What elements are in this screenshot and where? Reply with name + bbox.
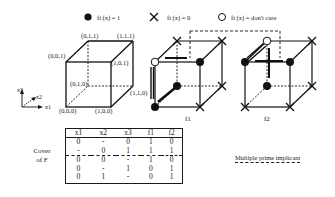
f1-vertex-001-dontcare xyxy=(151,58,159,66)
cube-f2 xyxy=(245,41,312,107)
reference-cube xyxy=(66,41,133,107)
table-row: 0 0 - 1 0 xyxy=(66,156,182,165)
cover-table: x1 x2 x3 f1 f2 0 - 0 1 0 - 0 1 1 1 xyxy=(65,128,183,184)
cover-label: Cover of F xyxy=(27,147,57,165)
cube-f1-label: f1 xyxy=(185,115,191,123)
cover-label-line2: of F xyxy=(27,156,57,165)
table-row: 0 1 - 0 1 xyxy=(66,173,182,182)
legend-on-label: fi (x) = 1 xyxy=(97,14,120,22)
f1-vertex-010-on xyxy=(173,82,181,90)
vertex-label-010: (0,1,0) xyxy=(70,80,87,88)
vertex-label-110: (1,1,0) xyxy=(130,89,147,97)
f2-vertex-011-dontcare xyxy=(263,37,271,45)
vertex-label-001: (0,0,1) xyxy=(48,52,65,60)
axis-x2-label: x2 xyxy=(36,94,42,100)
vertex-label-000: (0,0,0) xyxy=(59,107,76,115)
legend: fi (x) = 1 fi (x) = 0 fi (x) = don't car… xyxy=(84,13,276,22)
cube-f1 xyxy=(151,41,222,107)
legend-off-label: fi (x) = 0 xyxy=(167,14,190,22)
cube-f2-label: f2 xyxy=(264,115,270,123)
vertex-label-100: (1,0,0) xyxy=(95,107,112,115)
table-row-multiple-prime-implicant: - 0 1 1 1 xyxy=(66,147,182,156)
vertex-label-111: (1,1,1) xyxy=(117,32,134,40)
axis-x3-label: x3 xyxy=(17,87,23,93)
table-row: 0 - 0 1 0 xyxy=(66,138,182,147)
hollow-circle-icon xyxy=(219,14,226,21)
cell: 1 xyxy=(161,173,182,182)
legend-dc-label: fi (x) = don't care xyxy=(231,14,276,22)
f1-vertex-000-on xyxy=(151,103,159,111)
cross-icon xyxy=(150,13,158,21)
vertex-label-101: (1,0,1) xyxy=(111,59,128,67)
cell: - xyxy=(116,173,141,182)
filled-circle-icon xyxy=(84,13,91,20)
f2-vertex-010-on xyxy=(263,82,271,90)
cover-label-line1: Cover xyxy=(27,147,57,156)
axis-x1-label: x1 xyxy=(45,104,51,110)
table-row: 0 - 1 0 1 xyxy=(66,165,182,174)
cell: 0 xyxy=(66,173,91,182)
f2-vertex-101-on xyxy=(286,58,294,66)
multiple-prime-implicant-label: Multiple prime implicant xyxy=(235,154,300,163)
f1-vertex-101-on xyxy=(196,58,204,66)
table-header-row: x1 x2 x3 f1 f2 xyxy=(66,129,182,138)
f2-vertex-001-on xyxy=(241,58,249,66)
cell: 1 xyxy=(91,173,116,182)
vertex-label-011: (0,1,1) xyxy=(81,32,98,40)
cell: 0 xyxy=(141,173,162,182)
